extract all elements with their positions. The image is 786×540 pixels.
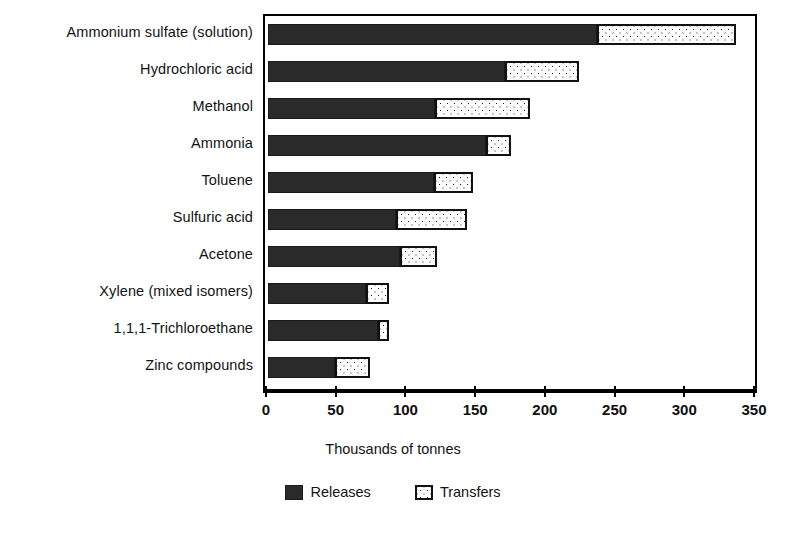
- bar-segment-releases: [268, 135, 486, 156]
- bar-segment-transfers: [435, 98, 530, 119]
- legend-item: Transfers: [415, 484, 501, 500]
- axis-tick-label: 150: [452, 401, 498, 418]
- x-axis-title: Thousands of tonnes: [0, 441, 786, 457]
- axis-tick-label: 300: [661, 401, 707, 418]
- bar-segment-transfers: [400, 246, 436, 267]
- axis-tick-label: 50: [313, 401, 359, 418]
- bar-segment-transfers: [396, 209, 467, 230]
- category-label: Xylene (mixed isomers): [0, 281, 253, 302]
- axis-tick-label: 100: [382, 401, 428, 418]
- bar-segment-releases: [268, 172, 434, 193]
- bar-segment-transfers: [434, 172, 473, 193]
- axis-tick-label: 0: [243, 401, 289, 418]
- category-label: Acetone: [0, 244, 253, 265]
- bar-segment-releases: [268, 24, 597, 45]
- bar-row: [265, 357, 759, 378]
- category-axis: Ammonium sulfate (solution)Hydrochloric …: [0, 22, 253, 377]
- legend-label: Transfers: [440, 484, 501, 500]
- bar-row: [265, 172, 759, 193]
- category-label: Methanol: [0, 96, 253, 117]
- category-label: Sulfuric acid: [0, 207, 253, 228]
- bar-segment-transfers: [378, 320, 389, 341]
- legend-label: Releases: [310, 484, 370, 500]
- category-label: Zinc compounds: [0, 355, 253, 376]
- bar-segment-releases: [268, 357, 335, 378]
- bar-row: [265, 320, 759, 341]
- value-axis: 050100150200250300350: [263, 391, 757, 425]
- chart-legend: ReleasesTransfers: [0, 484, 786, 500]
- axis-tick: [474, 386, 476, 397]
- bar-segment-transfers: [335, 357, 370, 378]
- legend-swatch-releases-icon: [285, 485, 303, 500]
- axis-tick-label: 250: [592, 401, 638, 418]
- plot-area: [263, 14, 757, 391]
- bar-segment-transfers: [486, 135, 511, 156]
- bar-segment-transfers: [505, 61, 579, 82]
- axis-tick: [335, 386, 337, 397]
- stacked-bar-chart: Ammonium sulfate (solution)Hydrochloric …: [0, 0, 786, 540]
- bar-segment-releases: [268, 246, 400, 267]
- category-label: Ammonia: [0, 133, 253, 154]
- axis-tick-label: 350: [731, 401, 777, 418]
- bar-segment-releases: [268, 320, 378, 341]
- axis-tick: [404, 386, 406, 397]
- category-label: Toluene: [0, 170, 253, 191]
- axis-tick-label: 200: [522, 401, 568, 418]
- bar-segment-transfers: [366, 283, 390, 304]
- legend-swatch-transfers-icon: [415, 485, 433, 500]
- bar-segment-releases: [268, 283, 366, 304]
- axis-tick: [753, 386, 755, 397]
- bar-row: [265, 135, 759, 156]
- legend-item: Releases: [285, 484, 370, 500]
- bar-row: [265, 283, 759, 304]
- bar-row: [265, 61, 759, 82]
- bar-segment-releases: [268, 209, 396, 230]
- bar-row: [265, 24, 759, 45]
- bar-row: [265, 246, 759, 267]
- category-label: Hydrochloric acid: [0, 59, 253, 80]
- bar-row: [265, 98, 759, 119]
- axis-tick: [683, 386, 685, 397]
- category-label: Ammonium sulfate (solution): [0, 22, 253, 43]
- bar-segment-transfers: [597, 24, 736, 45]
- bar-segment-releases: [268, 98, 435, 119]
- axis-tick: [265, 386, 267, 397]
- bar-row: [265, 209, 759, 230]
- bar-segment-releases: [268, 61, 505, 82]
- axis-tick: [544, 386, 546, 397]
- category-label: 1,1,1-Trichloroethane: [0, 318, 253, 339]
- axis-tick: [614, 386, 616, 397]
